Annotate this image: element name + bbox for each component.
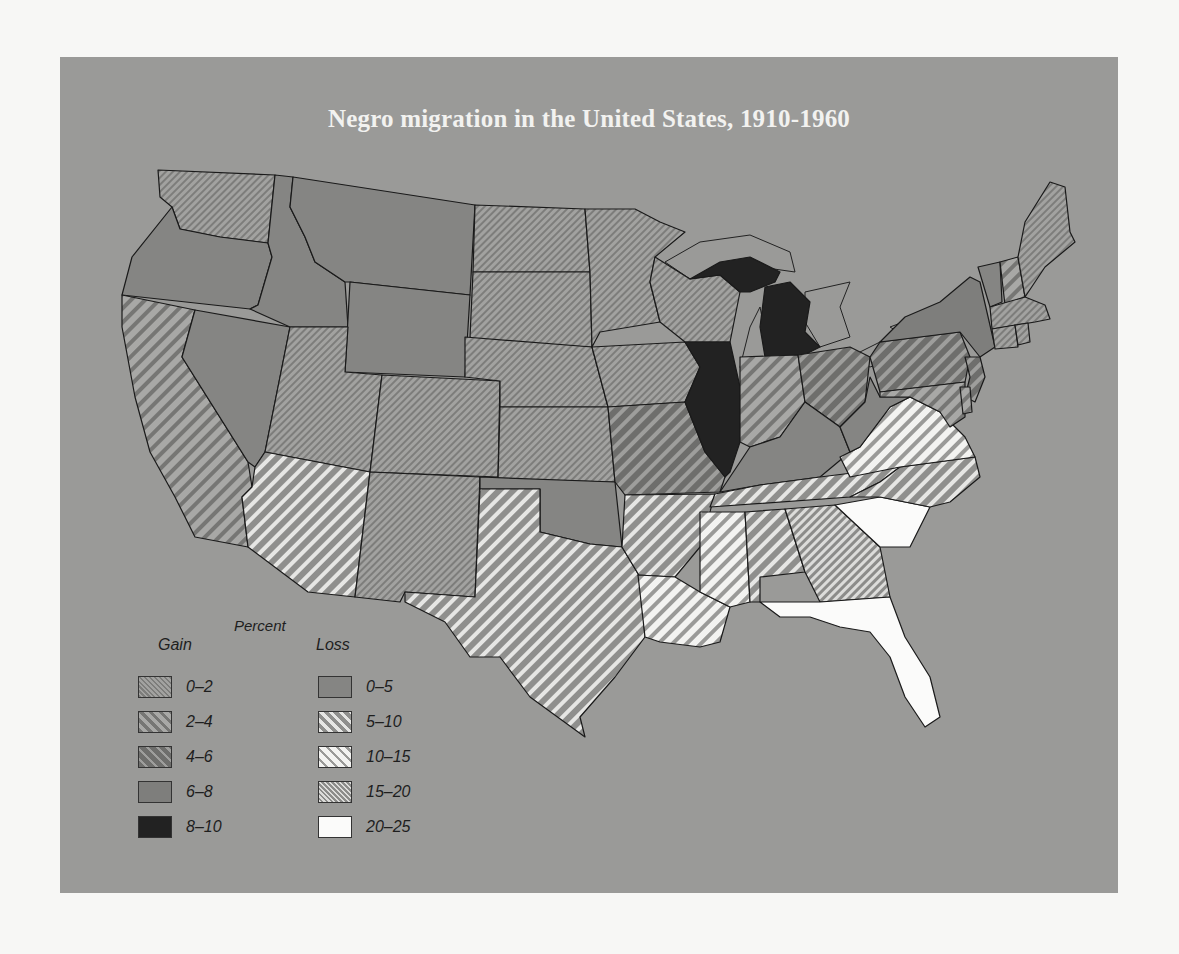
state-nd	[473, 205, 590, 272]
swatch-gain-2-4	[138, 711, 172, 733]
legend-item-loss-5-10: 5–10	[318, 704, 411, 739]
legend-item-gain-4-6: 4–6	[138, 739, 222, 774]
swatch-gain-4-6	[138, 746, 172, 768]
legend-item-loss-10-15: 10–15	[318, 739, 411, 774]
legend-label: 6–8	[186, 783, 213, 801]
swatch-gain-6-8	[138, 781, 172, 803]
legend-item-loss-20-25: 20–25	[318, 809, 411, 844]
legend-label: 4–6	[186, 748, 213, 766]
state-ms	[700, 512, 750, 607]
legend: Percent Gain Loss 0–2 2–4 4–6 6–8 8–10	[130, 607, 450, 867]
state-ia	[592, 342, 700, 407]
legend-loss-column: 0–5 5–10 10–15 15–20 20–25	[318, 669, 411, 844]
legend-heading-loss: Loss	[316, 636, 350, 654]
legend-label: 15–20	[366, 783, 411, 801]
state-ct	[992, 325, 1018, 349]
map-panel: Negro migration in the United States, 19…	[60, 57, 1118, 893]
legend-item-gain-0-2: 0–2	[138, 669, 222, 704]
legend-label: 8–10	[186, 818, 222, 836]
swatch-loss-15-20	[318, 781, 352, 803]
legend-label: 20–25	[366, 818, 411, 836]
legend-gain-column: 0–2 2–4 4–6 6–8 8–10	[138, 669, 222, 844]
swatch-loss-20-25	[318, 816, 352, 838]
state-nm	[355, 472, 480, 602]
legend-item-loss-15-20: 15–20	[318, 774, 411, 809]
legend-heading-percent: Percent	[234, 617, 286, 634]
swatch-gain-0-2	[138, 676, 172, 698]
legend-label: 10–15	[366, 748, 411, 766]
state-az	[242, 452, 370, 597]
legend-item-loss-0-5: 0–5	[318, 669, 411, 704]
state-co	[370, 375, 500, 477]
legend-item-gain-8-10: 8–10	[138, 809, 222, 844]
state-wy	[345, 282, 470, 377]
map-title: Negro migration in the United States, 19…	[60, 105, 1118, 133]
legend-label: 0–2	[186, 678, 213, 696]
legend-item-gain-2-4: 2–4	[138, 704, 222, 739]
state-me	[1018, 182, 1075, 297]
legend-item-gain-6-8: 6–8	[138, 774, 222, 809]
state-fl	[760, 597, 940, 727]
legend-heading-gain: Gain	[158, 636, 192, 654]
state-sd	[470, 272, 592, 347]
swatch-loss-0-5	[318, 676, 352, 698]
state-ks	[498, 407, 615, 482]
swatch-loss-10-15	[318, 746, 352, 768]
swatch-loss-5-10	[318, 711, 352, 733]
legend-label: 0–5	[366, 678, 393, 696]
legend-label: 2–4	[186, 713, 213, 731]
swatch-gain-8-10	[138, 816, 172, 838]
state-ri	[1015, 323, 1030, 345]
legend-label: 5–10	[366, 713, 402, 731]
